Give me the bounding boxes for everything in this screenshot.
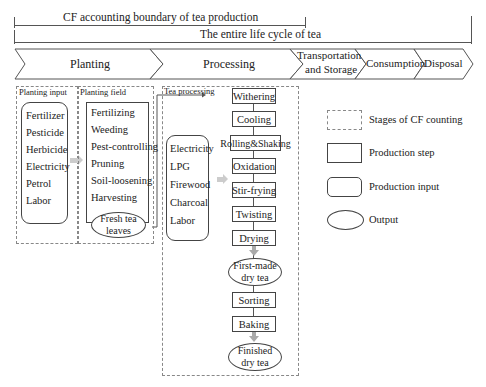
input-lpg: LPG xyxy=(170,161,190,172)
input-labor-2: Labor xyxy=(170,215,195,226)
input-herbicide: Herbicide xyxy=(26,144,67,155)
input-firewood: Firewood xyxy=(170,179,210,190)
legend-label-stages: Stages of CF counting xyxy=(369,114,463,125)
tea-processing-title: Tea processing xyxy=(164,86,215,96)
processing-input-box: Electricity LPG Firewood Charcoal Labor xyxy=(166,135,209,241)
step-fertilizing: Fertilizing xyxy=(91,107,135,118)
legend-rect xyxy=(327,143,362,163)
legend-label-output: Output xyxy=(369,214,398,225)
input-charcoal: Charcoal xyxy=(170,197,208,208)
step-baking: Baking xyxy=(232,316,276,332)
stage-consumption: Consumption xyxy=(366,57,425,69)
stage-transportation-line2: and Storage xyxy=(305,63,357,75)
planting-input-title: Planting input xyxy=(19,87,67,97)
step-sorting: Sorting xyxy=(232,292,276,308)
planting-field-title: Planting field xyxy=(80,87,126,97)
input-electricity: Electricity xyxy=(26,161,70,172)
step-pruning: Pruning xyxy=(91,158,124,169)
step-stir-frying: Stir-frying xyxy=(232,182,276,198)
legend-label-input: Production input xyxy=(369,181,439,192)
step-rolling-shaking: Rolling&Shaking xyxy=(230,135,281,151)
stage-processing: Processing xyxy=(203,57,255,72)
step-twisting: Twisting xyxy=(232,206,276,222)
step-withering: Withering xyxy=(232,88,276,104)
step-drying: Drying xyxy=(232,230,276,246)
step-soil-loosening: Soil-loosening xyxy=(91,175,152,186)
step-cooling: Cooling xyxy=(232,111,276,127)
input-electricity-2: Electricity xyxy=(170,143,214,154)
step-oxidation: Oxidation xyxy=(232,158,276,174)
planting-field-steps-box: Fertilizing Weeding Pest-controlling Pru… xyxy=(86,102,149,223)
input-fertilizer: Fertilizer xyxy=(26,110,64,121)
input-petrol: Petrol xyxy=(26,178,51,189)
output-finished-dry-tea: Finished dry tea xyxy=(228,343,282,371)
planting-input-box: Fertilizer Pesticide Herbicide Electrici… xyxy=(21,102,68,224)
stage-transportation-line1: Transportation xyxy=(297,49,361,61)
input-labor: Labor xyxy=(26,195,51,206)
legend-dashed-rect xyxy=(327,110,362,130)
step-weeding: Weeding xyxy=(91,124,128,135)
step-pest-controlling: Pest-controlling xyxy=(91,141,158,152)
stage-planting: Planting xyxy=(70,57,110,72)
input-pesticide: Pesticide xyxy=(26,127,64,138)
step-harvesting: Harvesting xyxy=(91,192,137,203)
legend-rounded-rect xyxy=(327,177,362,197)
output-first-made-dry-tea: First-made dry tea xyxy=(228,258,282,286)
legend-oval xyxy=(327,210,364,230)
stage-disposal: Disposal xyxy=(424,57,463,69)
output-fresh-tea-leaves: Fresh tea leaves xyxy=(91,212,146,238)
legend-label-step: Production step xyxy=(369,147,435,158)
arrow-right-icon xyxy=(70,158,78,163)
